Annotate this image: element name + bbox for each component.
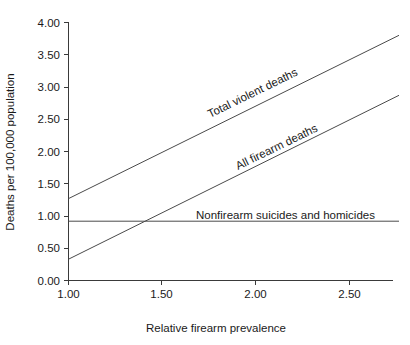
y-axis-title: Deaths per 100,000 population <box>4 73 16 230</box>
chart-figure: 4.00 3.50 3.00 2.50 2.00 1.50 1.00 0.50 … <box>0 0 410 345</box>
y-tick-label: 2.00 <box>38 146 60 158</box>
y-tick-label: 4.00 <box>38 17 60 29</box>
y-tick-label: 1.50 <box>38 178 60 190</box>
x-tick-label: 2.00 <box>244 288 266 300</box>
y-tick-label: 3.50 <box>38 49 60 61</box>
x-tick-label: 1.50 <box>150 288 172 300</box>
x-axis-title: Relative firearm prevalence <box>146 322 286 334</box>
line-chart-svg: 4.00 3.50 3.00 2.50 2.00 1.50 1.00 0.50 … <box>0 0 410 345</box>
y-tick-label: 0.50 <box>38 242 60 254</box>
x-tick-label: 2.50 <box>338 288 360 300</box>
series-label-nonfirearm-suicides-and-homicides: Nonfirearm suicides and homicides <box>196 209 375 221</box>
y-axis-tick-labels: 4.00 3.50 3.00 2.50 2.00 1.50 1.00 0.50 … <box>38 17 60 287</box>
y-tick-label: 2.50 <box>38 113 60 125</box>
y-tick-label: 1.00 <box>38 210 60 222</box>
y-tick-label: 3.00 <box>38 81 60 93</box>
y-tick-label: 0.00 <box>38 275 60 287</box>
x-tick-label: 1.00 <box>57 288 79 300</box>
